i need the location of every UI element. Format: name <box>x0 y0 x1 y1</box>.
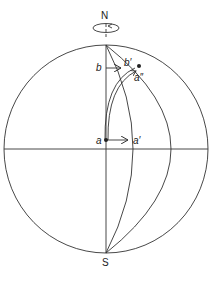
a-double-prime-label: a″ <box>134 72 144 83</box>
b-prime-label: b′ <box>124 57 133 68</box>
a-label: a <box>96 135 102 146</box>
b-label: b <box>96 62 102 73</box>
south-label: S <box>102 257 109 268</box>
a-prime-label: a′ <box>133 135 142 146</box>
globe-diagram: N S b b′ a″ a a′ <box>0 0 219 281</box>
deflected-path <box>105 68 136 140</box>
north-label: N <box>101 10 108 21</box>
point-a <box>104 138 108 142</box>
point-a-double-prime <box>137 64 141 68</box>
